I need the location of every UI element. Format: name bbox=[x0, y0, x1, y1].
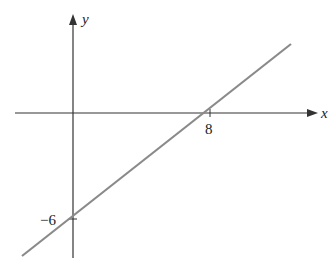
graph-line bbox=[22, 44, 291, 256]
x-axis-label: x bbox=[320, 105, 328, 121]
y-axis-label: y bbox=[80, 11, 89, 27]
x-axis-arrow-icon bbox=[307, 109, 318, 117]
x-intercept-label: 8 bbox=[205, 121, 213, 137]
y-axis-arrow-icon bbox=[69, 14, 77, 25]
graph-canvas: y x 8 −6 bbox=[0, 0, 331, 258]
y-intercept-label: −6 bbox=[40, 212, 56, 228]
